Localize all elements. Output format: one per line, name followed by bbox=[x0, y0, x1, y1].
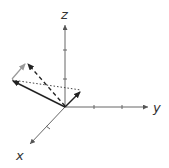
y-axis-label: y bbox=[152, 100, 161, 115]
vector-b-translated bbox=[12, 64, 25, 79]
vector-a bbox=[13, 81, 65, 107]
vector-diagram: z y x bbox=[0, 0, 169, 168]
resultant-vector bbox=[28, 64, 65, 106]
x-axis bbox=[30, 107, 65, 144]
y-axis bbox=[65, 105, 148, 109]
z-axis-label: z bbox=[60, 7, 69, 22]
vector-b bbox=[65, 92, 80, 107]
z-axis bbox=[63, 25, 67, 107]
x-axis-label: x bbox=[15, 148, 24, 163]
